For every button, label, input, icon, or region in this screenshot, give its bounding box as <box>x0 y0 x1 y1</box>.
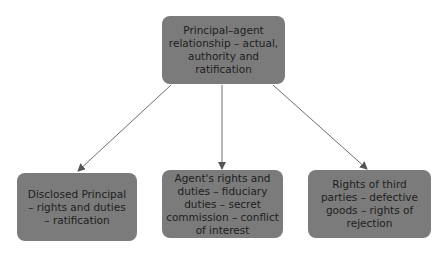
diagram-canvas: Principal–agent relationship – actual, a… <box>0 0 445 254</box>
node-principal-agent: Principal–agent relationship – actual, a… <box>162 16 285 84</box>
node-third-parties: Rights of third parties – defective good… <box>308 170 431 238</box>
edge-root-to-third-parties <box>273 85 367 169</box>
node-agents-rights: Agent's rights and duties – fiduciary du… <box>162 170 283 238</box>
node-label: Rights of third parties – defective good… <box>313 178 426 230</box>
edge-root-to-disclosed-principal <box>78 85 171 171</box>
node-label: Principal–agent relationship – actual, a… <box>167 24 280 76</box>
node-label: Disclosed Principal – rights and duties … <box>22 188 132 227</box>
node-label: Agent's rights and duties – fiduciary du… <box>165 172 280 237</box>
node-disclosed-principal: Disclosed Principal – rights and duties … <box>17 173 137 241</box>
